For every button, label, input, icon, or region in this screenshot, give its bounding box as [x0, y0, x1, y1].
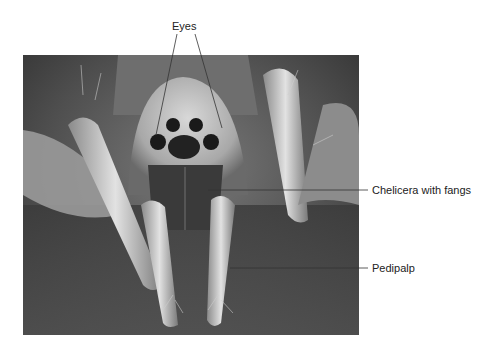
label-eyes: Eyes	[172, 20, 196, 32]
spider-head-illustration	[23, 55, 359, 335]
label-pedipalp: Pedipalp	[372, 262, 415, 274]
label-chelicera: Chelicera with fangs	[372, 184, 471, 196]
sem-micrograph	[23, 55, 359, 335]
